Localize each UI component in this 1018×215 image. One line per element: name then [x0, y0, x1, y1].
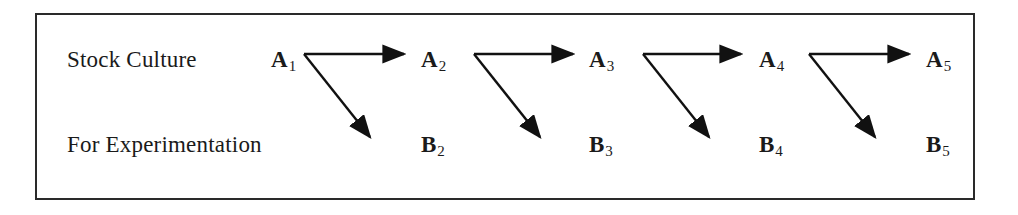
arrow-a3-b4 — [643, 54, 709, 137]
arrows-layer — [0, 0, 1018, 215]
arrow-a4-b5 — [809, 54, 875, 137]
arrow-a1-b2 — [304, 54, 370, 137]
arrow-a2-b3 — [474, 54, 540, 137]
